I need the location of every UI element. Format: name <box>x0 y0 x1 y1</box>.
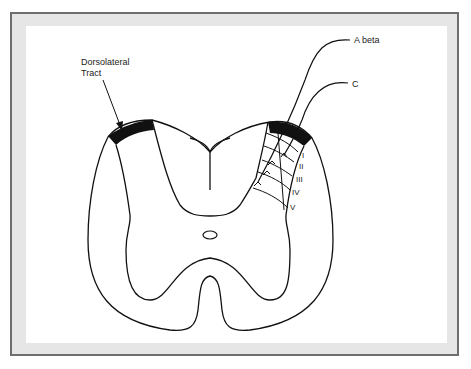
label-dorsolateral-line2: Tract <box>81 68 102 78</box>
dorsolateral-arrow-line <box>103 80 120 125</box>
dorsal-horn-right <box>256 122 268 178</box>
lamina-label-3: III <box>296 175 303 184</box>
lamina-label-5: V <box>290 203 296 212</box>
label-c-fiber: C <box>352 79 359 89</box>
dorsolateral-tract-right <box>268 122 312 146</box>
c-fiber <box>284 83 348 155</box>
lamina-boundary-6 <box>278 133 284 210</box>
lamina-label-1: I <box>302 151 304 160</box>
synapse-marker <box>254 182 261 186</box>
central-canal <box>203 231 217 239</box>
laminae-lines <box>253 133 298 210</box>
lamina-boundary-3 <box>262 160 292 176</box>
dorsolateral-tract-left <box>108 120 154 145</box>
lamina-label-2: II <box>299 162 303 171</box>
lamina-label-4: IV <box>292 188 300 197</box>
spinal-cord-diagram: Dorsolateral Tract A beta C I II III IV … <box>0 0 471 369</box>
label-a-beta: A beta <box>354 35 380 45</box>
dorsal-median-septum <box>190 138 230 190</box>
dorsal-horn-left <box>152 120 256 216</box>
label-dorsolateral-line1: Dorsolateral <box>81 57 130 67</box>
